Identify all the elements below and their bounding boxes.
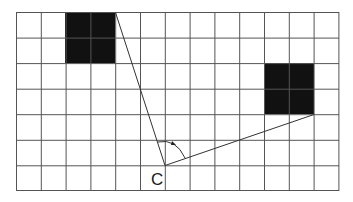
- grid-diagram: C: [0, 0, 353, 202]
- point-label-c: C: [151, 170, 163, 189]
- upper-left-square: [65, 12, 115, 63]
